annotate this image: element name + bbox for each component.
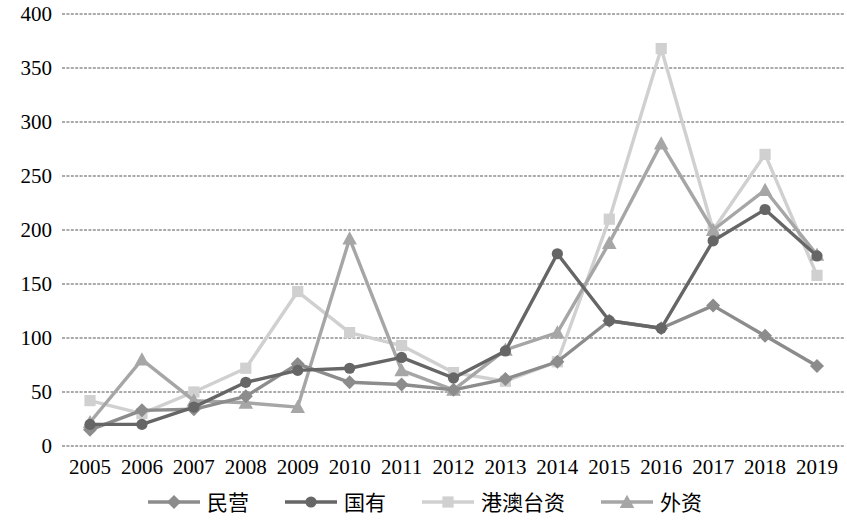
triangle-marker <box>394 363 409 376</box>
circle-marker <box>811 250 822 261</box>
circle-marker <box>396 352 407 363</box>
diamond-legend-swatch <box>146 492 202 516</box>
triangle-marker <box>342 231 357 244</box>
circle-marker <box>136 419 147 430</box>
triangle-legend-swatch <box>599 492 655 516</box>
x-axis-tick-label: 2005 <box>69 452 111 482</box>
triangle-icon <box>599 492 655 512</box>
circle-legend-swatch <box>283 492 339 516</box>
legend-label: 港澳台资 <box>481 493 565 514</box>
y-axis-tick-label: 100 <box>4 328 52 349</box>
x-axis-tick-label: 2008 <box>225 452 267 482</box>
triangle-marker <box>654 136 669 149</box>
legend-label: 民营 <box>207 493 249 514</box>
x-axis-tick-label: 2007 <box>173 452 215 482</box>
x-axis-tick-label: 2018 <box>744 452 786 482</box>
x-axis-tick-label: 2010 <box>329 452 371 482</box>
legend-item-3[interactable]: 港澳台资 <box>420 492 565 516</box>
y-axis-tick-label: 200 <box>4 220 52 241</box>
square-marker <box>396 340 407 351</box>
triangle-marker <box>550 325 565 338</box>
circle-marker <box>604 315 615 326</box>
circle-marker <box>759 204 770 215</box>
y-axis-tick-label: 250 <box>4 166 52 187</box>
legend-item-1[interactable]: 民营 <box>146 492 249 516</box>
triangle-marker <box>758 183 773 196</box>
square-marker <box>240 363 251 374</box>
y-axis: 050100150200250300350400 <box>0 0 52 460</box>
square-icon <box>420 492 476 512</box>
circle-marker <box>188 402 199 413</box>
y-axis-tick-label: 400 <box>4 4 52 25</box>
x-axis-tick-label: 2013 <box>484 452 526 482</box>
circle-marker <box>552 248 563 259</box>
diamond-marker <box>343 375 357 389</box>
square-marker <box>292 286 303 297</box>
x-axis-tick-label: 2016 <box>640 452 682 482</box>
circle-marker <box>240 377 251 388</box>
x-axis-tick-label: 2019 <box>796 452 838 482</box>
circle-marker <box>292 365 303 376</box>
x-axis-tick-label: 2014 <box>536 452 578 482</box>
diamond-marker <box>758 329 772 343</box>
square-marker <box>604 214 615 225</box>
x-axis-tick-label: 2006 <box>121 452 163 482</box>
square-marker <box>811 270 822 281</box>
triangle-marker <box>135 352 150 365</box>
circle-marker <box>344 363 355 374</box>
line-chart: 050100150200250300350400 200520062007200… <box>0 0 847 520</box>
legend-label: 外资 <box>660 493 702 514</box>
circle-marker <box>84 419 95 430</box>
y-axis-tick-label: 0 <box>4 436 52 457</box>
y-axis-tick-label: 350 <box>4 58 52 79</box>
circle-marker <box>305 496 316 507</box>
x-axis-tick-label: 2017 <box>692 452 734 482</box>
circle-marker <box>448 372 459 383</box>
plot-svg <box>62 0 845 460</box>
y-axis-tick-label: 50 <box>4 382 52 403</box>
circle-marker <box>500 345 511 356</box>
diamond-icon <box>146 492 202 512</box>
square-marker <box>344 327 355 338</box>
square-marker <box>442 496 453 507</box>
legend-label: 国有 <box>344 493 386 514</box>
y-axis-tick-label: 300 <box>4 112 52 133</box>
chart-legend: 民营国有港澳台资外资 <box>0 487 847 520</box>
square-marker <box>84 395 95 406</box>
x-axis-tick-label: 2012 <box>433 452 475 482</box>
diamond-marker <box>810 359 824 373</box>
circle-marker <box>656 323 667 334</box>
legend-item-2[interactable]: 国有 <box>283 492 386 516</box>
plot-area <box>62 0 845 460</box>
square-marker <box>656 43 667 54</box>
x-axis: 2005200620072008200920102011201220132014… <box>62 452 845 484</box>
x-axis-tick-label: 2011 <box>381 452 422 482</box>
square-marker <box>759 149 770 160</box>
legend-item-4[interactable]: 外资 <box>599 492 702 516</box>
x-axis-tick-label: 2009 <box>277 452 319 482</box>
diamond-marker <box>395 377 409 391</box>
circle-icon <box>283 492 339 512</box>
circle-marker <box>708 235 719 246</box>
y-axis-tick-label: 150 <box>4 274 52 295</box>
diamond-marker <box>706 299 720 313</box>
diamond-marker <box>167 495 181 509</box>
x-axis-tick-label: 2015 <box>588 452 630 482</box>
square-legend-swatch <box>420 492 476 516</box>
